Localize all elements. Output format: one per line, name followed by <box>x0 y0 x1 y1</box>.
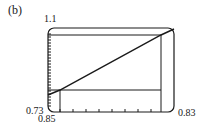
curve-line <box>48 29 174 95</box>
calculator-window <box>0 0 198 126</box>
window-frame <box>48 28 174 112</box>
